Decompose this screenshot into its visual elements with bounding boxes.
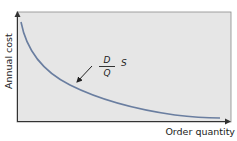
x-axis-label: Order quantity	[150, 125, 235, 139]
y-axis-label: Annual cost	[3, 39, 15, 89]
annotation-numerator: D	[97, 55, 117, 65]
chart-canvas	[0, 0, 237, 141]
annotation-denominator: Q	[97, 68, 117, 78]
fraction-bar	[99, 66, 115, 67]
annotation-suffix: S	[121, 58, 127, 68]
annotation-fraction: D Q	[97, 55, 117, 78]
